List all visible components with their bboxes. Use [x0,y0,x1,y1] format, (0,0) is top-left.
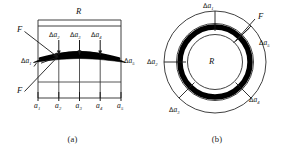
figure-root: R F F Δa1 Δa2 Δa3 Δa4 Δa5 a1 a2 a3 a4 a5… [0,0,289,150]
axis-ticks [38,92,121,101]
panel-a-caption: (a) [0,134,145,144]
element-label-da2: Δa2 [49,31,59,39]
gridlines [59,56,100,98]
axis-label-a5: a5 [117,102,123,110]
span-label-R: R [76,7,81,16]
panel-a-flat-strip: R F F Δa1 Δa2 Δa3 Δa4 Δa5 a1 a2 a3 a4 a5… [0,0,145,150]
panel-b-annular-ring: R F Δa1 Δa2 Δa3 Δa4 Δa5 (b) [145,0,289,150]
axis-label-a2: a2 [55,102,61,110]
span-bracket-R [38,20,121,26]
force-label-F: F [258,12,263,21]
axis-label-a1: a1 [34,102,40,110]
da1-leader [34,63,37,67]
element-label-da3: Δa3 [169,106,179,114]
element-label-da2: Δa2 [147,58,157,66]
center-label-R: R [209,57,214,66]
axis-label-a3: a3 [76,102,82,110]
force-label-F-top: F [17,25,22,34]
element-label-da4: Δa4 [91,31,101,39]
panel-b-drawing [145,0,289,150]
axis-label-a4: a4 [96,102,102,110]
element-label-da4: Δa4 [249,96,259,104]
force-label-F-bottom: F [17,86,22,95]
element-label-da5: Δa5 [124,57,134,65]
panel-b-caption: (b) [145,134,289,144]
element-label-da3: Δa3 [70,31,80,39]
element-label-da1: Δa1 [203,2,213,10]
element-label-da1: Δa1 [21,57,31,65]
element-label-da5: Δa5 [259,39,269,47]
panel-a-drawing [0,0,145,150]
